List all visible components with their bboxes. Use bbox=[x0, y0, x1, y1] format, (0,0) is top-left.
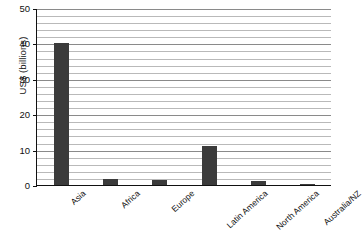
y-axis-tick-mark bbox=[33, 44, 37, 45]
y-axis-tick-mark bbox=[33, 186, 37, 187]
gridline bbox=[37, 30, 331, 31]
gridline bbox=[37, 136, 331, 137]
gridline bbox=[37, 115, 331, 116]
gridline bbox=[37, 165, 331, 166]
gridline bbox=[37, 51, 331, 52]
gridline bbox=[37, 66, 331, 67]
gridline bbox=[37, 151, 331, 152]
gridline bbox=[37, 94, 331, 95]
y-axis-tick-mark bbox=[33, 115, 37, 116]
x-axis-tick-label: Africa bbox=[119, 189, 141, 210]
x-axis-tick-label: Australia/NZ bbox=[322, 189, 363, 227]
y-axis-tick-label: 20 bbox=[4, 110, 30, 119]
gridline bbox=[37, 144, 331, 145]
gridline bbox=[37, 122, 331, 123]
x-axis-line bbox=[37, 185, 331, 186]
gridline bbox=[37, 59, 331, 60]
gridline bbox=[37, 172, 331, 173]
gridline bbox=[37, 23, 331, 24]
gridline bbox=[37, 44, 331, 45]
plot-area bbox=[36, 9, 331, 186]
y-axis-tick-mark bbox=[33, 9, 37, 10]
gridline bbox=[37, 101, 331, 102]
gridline bbox=[37, 158, 331, 159]
y-axis-tick-label: 10 bbox=[4, 146, 30, 155]
bar bbox=[202, 146, 217, 186]
bar bbox=[54, 43, 69, 186]
gridline bbox=[37, 80, 331, 81]
y-axis-tick-mark bbox=[33, 80, 37, 81]
gridline bbox=[37, 37, 331, 38]
gridline bbox=[37, 87, 331, 88]
y-axis-tick-label: 40 bbox=[4, 39, 30, 48]
gridline bbox=[37, 179, 331, 180]
x-axis-tick-label: Europe bbox=[170, 189, 196, 214]
x-axis-tick-label: Asia bbox=[69, 189, 87, 207]
x-axis-tick-label: Latin America bbox=[225, 189, 269, 230]
y-axis-tick-label: 50 bbox=[4, 4, 30, 13]
y-axis-tick-label: 30 bbox=[4, 75, 30, 84]
x-axis-tick-label: North America bbox=[275, 189, 321, 232]
gridline bbox=[37, 9, 331, 10]
gridline bbox=[37, 129, 331, 130]
gridline bbox=[37, 73, 331, 74]
gridline bbox=[37, 108, 331, 109]
gridline bbox=[37, 16, 331, 17]
y-axis-tick-label: 0 bbox=[4, 181, 30, 190]
y-axis-tick-mark bbox=[33, 151, 37, 152]
